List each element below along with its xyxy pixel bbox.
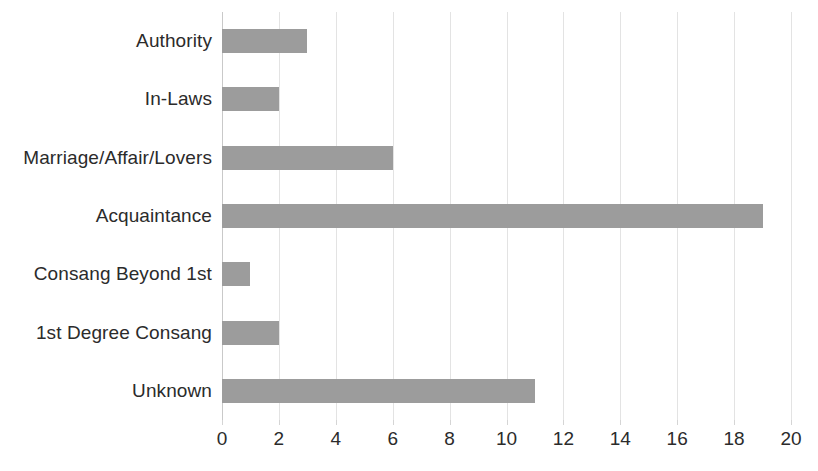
category-label: Marriage/Affair/Lovers [23, 146, 212, 170]
value-tick-label: 0 [217, 426, 228, 452]
value-tick-label: 4 [331, 426, 342, 452]
value-tick-label: 18 [724, 426, 745, 452]
value-axis-labels: 02468101214161820 [0, 426, 818, 460]
category-label: Unknown [132, 379, 212, 403]
value-tick-label: 10 [496, 426, 517, 452]
category-label: In-Laws [145, 87, 212, 111]
tick-mark [734, 420, 735, 425]
category-label: Acquaintance [96, 204, 212, 228]
tick-mark [279, 420, 280, 425]
tick-mark [222, 420, 223, 425]
bar-chart: AuthorityIn-LawsMarriage/Affair/LoversAc… [0, 0, 818, 471]
tick-mark [677, 420, 678, 425]
tick-mark [450, 420, 451, 425]
bar [222, 146, 393, 170]
value-tick-label: 2 [274, 426, 285, 452]
value-tick-label: 20 [780, 426, 801, 452]
category-label: 1st Degree Consang [36, 321, 212, 345]
bars-layer [222, 12, 791, 420]
tick-mark [620, 420, 621, 425]
value-tick-label: 6 [387, 426, 398, 452]
tick-mark [563, 420, 564, 425]
category-label: Consang Beyond 1st [34, 262, 212, 286]
bar [222, 379, 535, 403]
value-tick-label: 16 [667, 426, 688, 452]
gridline [791, 12, 792, 420]
category-label: Authority [136, 29, 212, 53]
plot-area [222, 12, 791, 420]
bar [222, 29, 307, 53]
tick-mark [507, 420, 508, 425]
value-tick-label: 14 [610, 426, 631, 452]
value-tick-label: 8 [444, 426, 455, 452]
value-tick-label: 12 [553, 426, 574, 452]
bar [222, 87, 279, 111]
bar [222, 204, 763, 228]
category-axis-labels: AuthorityIn-LawsMarriage/Affair/LoversAc… [0, 12, 222, 420]
tick-mark [393, 420, 394, 425]
bar [222, 262, 250, 286]
bar [222, 321, 279, 345]
tick-mark [791, 420, 792, 425]
tick-mark [336, 420, 337, 425]
